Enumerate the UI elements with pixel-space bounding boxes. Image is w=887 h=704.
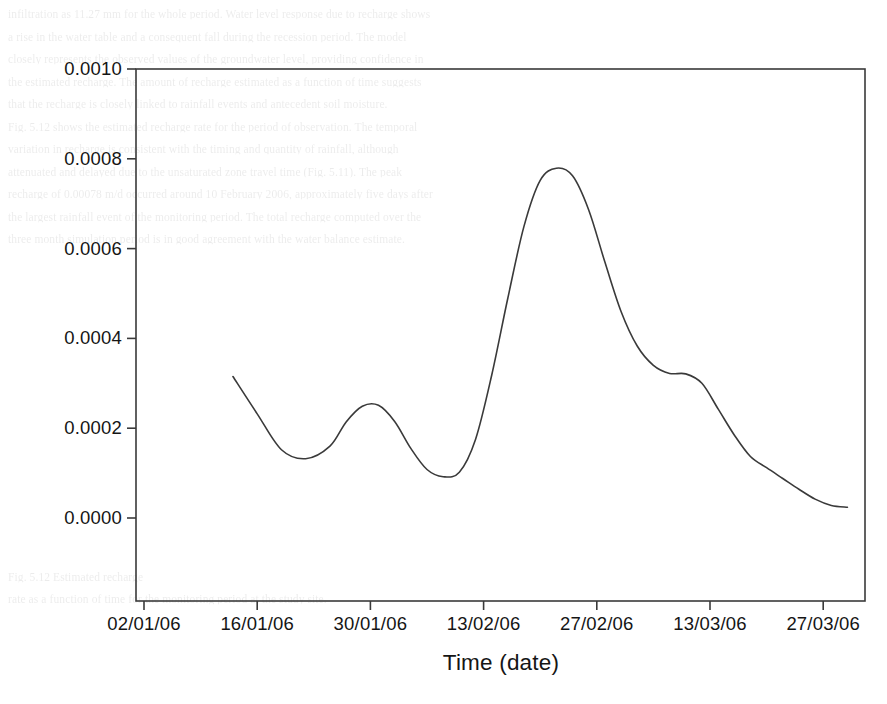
x-tick-label-text: 13/02/06 — [447, 613, 521, 634]
x-tick-label-text: 27/03/06 — [786, 613, 860, 634]
x-tick-label: 27/03/06 — [743, 613, 887, 635]
recharge-time-series-figure: 0.00000.00020.00040.00060.00080.0010 02/… — [0, 0, 887, 704]
x-tick-label-text: 13/03/06 — [673, 613, 747, 634]
x-tick-label-text: 02/01/06 — [107, 613, 181, 634]
x-axis-title: Time (date) — [136, 650, 866, 676]
x-axis-tick-labels: 02/01/0616/01/0630/01/0613/02/0627/02/06… — [0, 0, 887, 704]
x-tick-label-text: 16/01/06 — [220, 613, 294, 634]
x-tick-label-text: 30/01/06 — [334, 613, 408, 634]
x-tick-label-text: 27/02/06 — [560, 613, 634, 634]
